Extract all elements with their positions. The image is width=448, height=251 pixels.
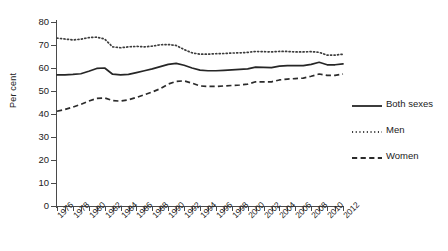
y-tick: [51, 137, 57, 138]
y-tick: [51, 183, 57, 184]
y-tick-label: 20: [3, 154, 49, 165]
legend-item-women[interactable]: Women: [352, 148, 446, 174]
y-tick: [51, 91, 57, 92]
x-tick-label: 1996: [214, 200, 234, 220]
x-tick-label: 1980: [87, 200, 107, 220]
y-tick-label: 50: [3, 85, 49, 96]
y-tick: [51, 45, 57, 46]
legend-swatch-dotted-icon: [352, 131, 382, 133]
y-tick-label: 70: [3, 39, 49, 50]
legend-label: Women: [386, 150, 419, 161]
line-chart-figure: Per cent 80706050403020100 1976197819801…: [0, 0, 448, 251]
x-tick-label: 1978: [71, 200, 91, 220]
y-tick: [51, 68, 57, 69]
y-tick-label: 80: [3, 16, 49, 27]
y-tick-label: 40: [3, 108, 49, 119]
y-tick-label: 60: [3, 62, 49, 73]
chart-legend: Both sexesMenWomen: [352, 96, 446, 174]
x-tick-label: 1982: [103, 200, 123, 220]
legend-item-both-sexes[interactable]: Both sexes: [352, 96, 446, 122]
legend-item-men[interactable]: Men: [352, 122, 446, 148]
series-line-men: [57, 37, 343, 55]
y-tick: [51, 114, 57, 115]
y-tick: [51, 160, 57, 161]
x-tick-label: 1998: [230, 200, 250, 220]
series-line-women: [57, 74, 343, 111]
legend-swatch-dashed-icon: [352, 157, 382, 159]
y-tick-label: 0: [3, 200, 49, 211]
legend-swatch-solid-icon: [352, 105, 382, 107]
y-tick-label: 10: [3, 177, 49, 188]
y-tick: [51, 22, 57, 23]
series-line-both-sexes: [57, 62, 343, 75]
legend-label: Men: [386, 124, 404, 135]
x-tick-label: 2012: [341, 200, 361, 220]
y-tick-label: 30: [3, 131, 49, 142]
legend-label: Both sexes: [386, 98, 433, 109]
x-tick-label: 2000: [246, 200, 266, 220]
